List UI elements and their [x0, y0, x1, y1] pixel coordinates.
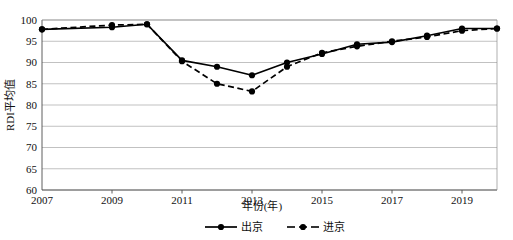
y-axis-title: RDI平均值: [4, 79, 16, 131]
y-tick-label-95: 95: [26, 35, 38, 47]
data-point-s1-2013: [249, 72, 255, 78]
x-axis-title: 年份(年): [242, 199, 283, 213]
data-point-s2-2012: [214, 81, 220, 87]
x-tick-label-2011: 2011: [171, 194, 193, 206]
data-point-s2-2010: [144, 21, 150, 27]
gridlines-group: [42, 20, 497, 190]
data-point-s2-2011: [179, 58, 185, 64]
data-point-s2-2009: [109, 22, 115, 28]
y-tick-label-90: 90: [26, 56, 38, 68]
y-tick-label-85: 85: [26, 78, 38, 90]
line-chart: 6065707580859095100 20072009201120132015…: [0, 0, 513, 240]
y-tick-label-75: 75: [26, 120, 38, 132]
data-point-s2-2015: [319, 50, 325, 56]
legend-label-2: 进京: [323, 220, 345, 233]
data-point-s2-2016: [354, 43, 360, 49]
y-axis-tick-labels: 6065707580859095100: [21, 14, 38, 196]
data-point-s2-2014: [284, 64, 290, 70]
data-point-s2-2007: [39, 26, 45, 32]
data-point-s2-2020: [494, 25, 500, 31]
data-point-s2-2018: [424, 34, 430, 40]
y-tick-label-100: 100: [21, 14, 38, 26]
x-tick-label-2019: 2019: [451, 194, 474, 206]
legend-marker-1: [218, 224, 224, 230]
x-tick-label-2007: 2007: [31, 194, 54, 206]
chart-legend: 出京进京: [205, 220, 345, 233]
legend-marker-2: [300, 224, 306, 230]
y-tick-label-65: 65: [26, 163, 38, 175]
x-axis-tick-marks: [112, 190, 462, 194]
data-point-s2-2017: [389, 38, 395, 44]
x-tick-label-2009: 2009: [101, 194, 124, 206]
data-point-s2-2013: [249, 88, 255, 94]
data-point-s2-2019: [459, 28, 465, 34]
series-line-1: [42, 24, 497, 75]
y-tick-label-70: 70: [26, 141, 38, 153]
y-tick-label-80: 80: [26, 99, 38, 111]
x-tick-label-2015: 2015: [311, 194, 334, 206]
x-tick-label-2017: 2017: [381, 194, 404, 206]
legend-label-1: 出京: [241, 220, 263, 233]
chart-container: 6065707580859095100 20072009201120132015…: [0, 0, 513, 240]
data-point-s1-2012: [214, 64, 220, 70]
